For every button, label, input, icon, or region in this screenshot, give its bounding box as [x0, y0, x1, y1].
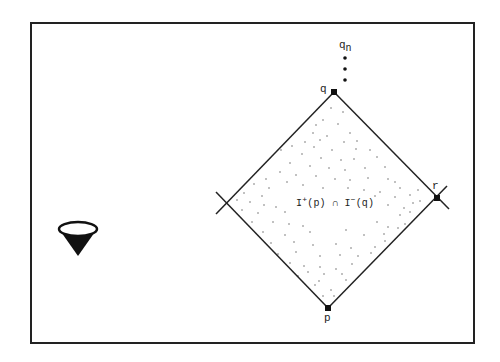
region-dot — [347, 187, 348, 188]
region-dot — [284, 234, 285, 235]
region-dot — [384, 166, 385, 167]
region-dot — [353, 158, 354, 159]
region-dot — [268, 187, 269, 188]
region-dot — [383, 233, 384, 234]
region-dot — [387, 178, 388, 179]
region-dot — [263, 204, 264, 205]
region-dot — [257, 212, 258, 213]
region-dot — [340, 159, 341, 160]
region-dot — [384, 240, 385, 241]
region-dot — [403, 207, 404, 208]
region-dot — [342, 111, 343, 112]
region-dot — [335, 243, 336, 244]
region-dot — [318, 280, 319, 281]
region-dot — [275, 206, 276, 207]
region-label: I+(p) ∩ I−(q) — [296, 196, 374, 209]
region-dot — [412, 202, 413, 203]
causal-diamond-svg — [0, 0, 500, 362]
region-dot — [345, 229, 346, 230]
region-dot — [302, 225, 303, 226]
region-arg-p: (p) — [307, 198, 326, 209]
region-dot — [364, 167, 365, 168]
region-dot — [363, 234, 364, 235]
region-dot — [399, 214, 400, 215]
region-dot — [369, 149, 370, 150]
region-dot — [304, 141, 305, 142]
sequence-dot — [343, 56, 347, 60]
region-dot — [387, 226, 388, 227]
region-dot — [319, 255, 320, 256]
region-dot — [376, 156, 377, 157]
region-dot — [251, 221, 252, 222]
region-dot — [295, 251, 296, 252]
region-dot — [356, 140, 357, 141]
point-r-marker — [434, 195, 440, 201]
region-dot — [394, 181, 395, 182]
region-dot — [397, 227, 398, 228]
region-dot — [262, 231, 263, 232]
region-dot — [288, 223, 289, 224]
region-dot — [309, 231, 310, 232]
region-dot — [409, 194, 410, 195]
sequence-dot — [343, 78, 347, 82]
region-dot — [330, 107, 331, 108]
region-dot — [374, 246, 375, 247]
label-r: r — [432, 181, 439, 192]
region-dot — [374, 195, 375, 196]
region-dot — [249, 201, 250, 202]
region-dot — [323, 273, 324, 274]
region-dot — [387, 204, 388, 205]
region-dot — [261, 195, 262, 196]
label-q: q — [320, 84, 327, 95]
region-dot — [355, 148, 356, 149]
region-dot — [379, 191, 380, 192]
region-dot — [272, 221, 273, 222]
region-dot — [376, 221, 377, 222]
region-dot — [328, 167, 329, 168]
region-dot — [236, 199, 237, 200]
region-dot — [319, 266, 320, 267]
region-dot — [301, 153, 302, 154]
region-dot — [350, 247, 351, 248]
region-dot — [330, 289, 331, 290]
region-dot — [326, 135, 327, 136]
region-dot — [399, 187, 400, 188]
region-dot — [333, 295, 334, 296]
region-dot — [295, 174, 296, 175]
point-q-marker — [331, 89, 337, 95]
region-dot — [289, 162, 290, 163]
sequence-dot — [343, 67, 347, 71]
region-dot — [241, 209, 242, 210]
diagram-canvas: q p r qn I+(p) ∩ I−(q) — [0, 0, 500, 362]
region-dot — [334, 178, 335, 179]
intersection-symbol: ∩ — [332, 198, 338, 209]
region-dot — [344, 169, 345, 170]
region-dot — [291, 145, 292, 146]
region-dot — [243, 192, 244, 193]
region-dot — [312, 132, 313, 133]
region-dot — [277, 253, 278, 254]
region-dot — [293, 241, 294, 242]
region-dot — [341, 273, 342, 274]
region-dot — [322, 295, 323, 296]
region-arg-q: (q) — [356, 198, 375, 209]
label-qn-subscript: n — [346, 43, 352, 54]
region-dot — [351, 263, 352, 264]
region-dot — [315, 175, 316, 176]
label-qn: qn — [339, 40, 352, 54]
region-dot — [394, 196, 395, 197]
region-dot — [320, 157, 321, 158]
region-dot — [319, 139, 320, 140]
region-dot — [322, 119, 323, 120]
region-dot — [265, 178, 266, 179]
region-dot — [337, 123, 338, 124]
region-dot — [349, 132, 350, 133]
region-dot — [409, 211, 410, 212]
region-dot — [349, 179, 350, 180]
light-cone-icon — [59, 222, 97, 256]
region-dot — [335, 268, 336, 269]
label-qn-base: q — [339, 39, 346, 51]
point-p-marker — [325, 305, 331, 311]
region-dot — [331, 149, 332, 150]
region-dot — [313, 146, 314, 147]
